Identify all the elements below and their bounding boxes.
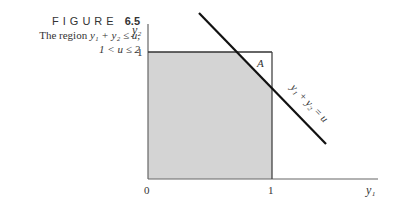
- y-tick-label: 1: [137, 46, 143, 58]
- x-axis-label: y₁: [365, 183, 376, 197]
- y-axis-label: y₂: [131, 23, 142, 37]
- region-diagram: y₂ 1 0 1 y₁ A y₁ + y₂ = u: [0, 0, 401, 206]
- origin-label: 0: [144, 184, 150, 196]
- line-equation-label: y₁ + y₂ = u: [288, 80, 332, 124]
- shaded-region: [148, 52, 272, 179]
- x-tick-label: 1: [268, 184, 274, 196]
- region-a-label: A: [256, 57, 264, 69]
